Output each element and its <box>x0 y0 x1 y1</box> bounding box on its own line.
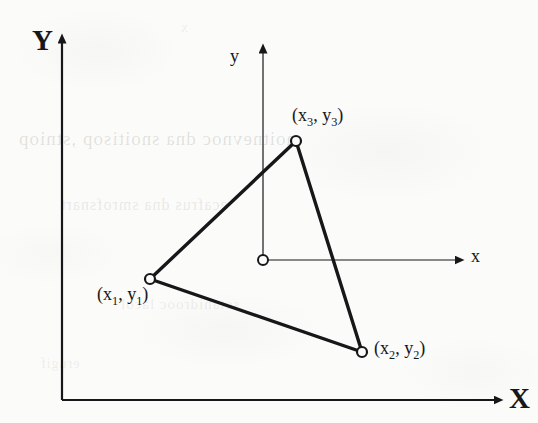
vertex-label-1: (x1, y1) <box>97 284 148 309</box>
local-x-axis-label: x <box>471 246 480 267</box>
vertex-label-3-y-sub: 3 <box>331 115 337 129</box>
vertex-label-1-x: x <box>103 284 112 304</box>
global-y-axis-label: Y <box>32 24 53 57</box>
vertex-label-3: (x3, y3) <box>292 105 343 130</box>
vertex-marker-1 <box>145 274 155 284</box>
vertex-label-1-y-sub: 1 <box>136 294 142 308</box>
vertex-marker-3 <box>291 136 301 146</box>
local-y-axis-label: y <box>230 46 239 67</box>
vertex-label-2-x: x <box>380 338 389 358</box>
coordinate-systems-diagram <box>0 0 538 423</box>
triangle-outline <box>150 141 362 352</box>
vertex-label-1-y: y <box>127 284 136 304</box>
vertex-label-2: (x2, y2) <box>374 338 425 363</box>
vertex-label-1-x-sub: 1 <box>112 294 118 308</box>
triangle-shape <box>150 141 362 352</box>
vertex-marker-2 <box>357 347 367 357</box>
local-origin-marker <box>258 255 268 265</box>
vertex-label-3-y: y <box>322 105 331 125</box>
local-axes <box>263 52 456 260</box>
vertex-label-2-y: y <box>404 338 413 358</box>
vertex-label-2-x-sub: 2 <box>389 348 395 362</box>
global-x-axis-label: X <box>509 382 530 415</box>
global-axes <box>62 42 495 400</box>
vertex-label-2-y-sub: 2 <box>413 348 419 362</box>
vertex-label-3-x: x <box>298 105 307 125</box>
vertex-label-3-x-sub: 3 <box>307 115 313 129</box>
